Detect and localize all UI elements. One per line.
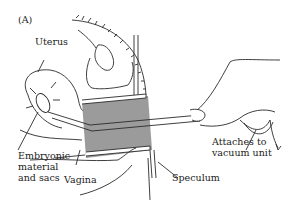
label-embryonic-3: and sacs bbox=[18, 172, 60, 183]
label-uterus: Uterus bbox=[35, 36, 68, 47]
hand bbox=[195, 60, 280, 127]
uterus-outline bbox=[25, 70, 84, 111]
label-embryonic-2: material bbox=[18, 161, 58, 172]
label-vacuum-2: vacuum unit bbox=[212, 147, 272, 158]
label-speculum: Speculum bbox=[172, 172, 220, 183]
speculum-handle bbox=[134, 35, 138, 97]
label-vagina: Vagina bbox=[64, 174, 97, 185]
label-embryonic-1: Embryonic bbox=[18, 150, 70, 161]
panel-label: (A) bbox=[18, 14, 32, 25]
label-vacuum-1: Attaches to bbox=[212, 136, 267, 147]
bladder bbox=[95, 45, 114, 70]
